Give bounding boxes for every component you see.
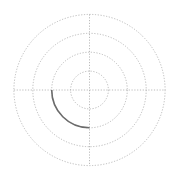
angular-grid-axes: [14, 14, 165, 165]
data-series-layer: [52, 90, 90, 128]
series-1-arc: [52, 90, 90, 128]
polar-chart: [0, 0, 178, 171]
polar-plot-canvas: [0, 0, 178, 171]
